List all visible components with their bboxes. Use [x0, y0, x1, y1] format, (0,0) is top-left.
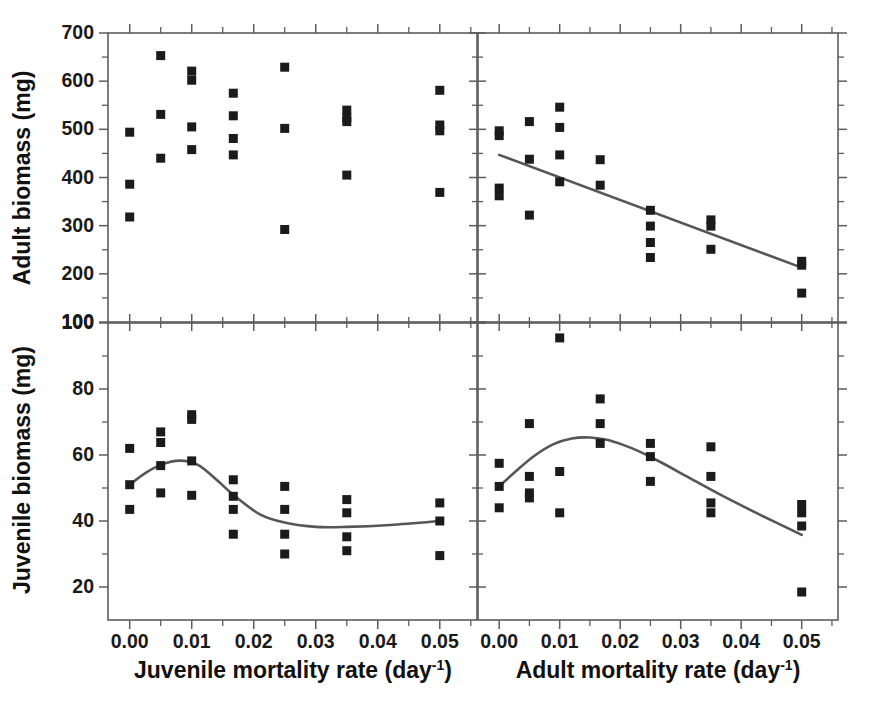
data-point — [156, 427, 165, 436]
data-point — [156, 154, 165, 163]
data-point — [495, 482, 504, 491]
y-tick-label: 100 — [61, 311, 94, 333]
data-point — [156, 110, 165, 119]
data-point — [706, 442, 715, 451]
data-point — [495, 503, 504, 512]
panel-bottom-left — [99, 314, 486, 629]
y-tick-label: 500 — [61, 117, 94, 139]
data-point — [156, 461, 165, 470]
x-tick-label: 0.00 — [111, 630, 149, 652]
data-point — [435, 86, 444, 95]
y-tick-label: 20 — [72, 575, 94, 597]
data-point — [342, 117, 351, 126]
x-tick-label: 0.02 — [601, 630, 639, 652]
data-point — [596, 419, 605, 428]
data-point — [187, 415, 196, 424]
data-point — [525, 117, 534, 126]
data-point — [495, 459, 504, 468]
data-point — [555, 508, 564, 517]
data-point — [797, 289, 806, 298]
data-point — [596, 394, 605, 403]
data-point — [280, 505, 289, 514]
data-point — [229, 530, 238, 539]
data-point — [280, 63, 289, 72]
data-point — [187, 145, 196, 154]
data-point — [646, 452, 655, 461]
data-point — [229, 150, 238, 159]
data-point — [555, 467, 564, 476]
x-tick-label: 0.04 — [359, 630, 397, 652]
panel-frame — [108, 33, 477, 322]
x-tick-label: 0.05 — [783, 630, 821, 652]
data-point — [187, 491, 196, 500]
data-point — [342, 171, 351, 180]
data-point — [797, 508, 806, 517]
data-point — [555, 103, 564, 112]
y-tick-label: 200 — [61, 262, 94, 284]
y-axis-title-top: Adult biomass (mg) — [9, 71, 35, 286]
data-point — [646, 222, 655, 231]
data-point — [525, 155, 534, 164]
data-point — [229, 134, 238, 143]
data-point — [495, 131, 504, 140]
data-point — [435, 517, 444, 526]
data-point — [555, 150, 564, 159]
data-point — [706, 245, 715, 254]
data-point — [797, 588, 806, 597]
data-point — [187, 76, 196, 85]
data-point — [525, 211, 534, 220]
data-point — [555, 123, 564, 132]
y-tick-label: 40 — [72, 509, 94, 531]
fit-line — [130, 461, 440, 528]
data-point — [125, 480, 134, 489]
multi-panel-chart: 700600500400300200100100806040200.000.01… — [0, 0, 869, 709]
y-axis-title-bottom: Juvenile biomass (mg) — [9, 346, 35, 594]
data-point — [797, 522, 806, 531]
y-tick-label: 400 — [61, 166, 94, 188]
x-tick-label: 0.02 — [235, 630, 273, 652]
x-tick-label: 0.01 — [173, 630, 211, 652]
x-axis-title-left: Juvenile mortality rate (day-1) — [134, 657, 452, 683]
data-point — [435, 498, 444, 507]
panel-frame — [108, 323, 477, 620]
data-point — [555, 177, 564, 186]
x-tick-label: 0.03 — [297, 630, 335, 652]
data-point — [646, 439, 655, 448]
data-point — [646, 477, 655, 486]
data-point — [125, 180, 134, 189]
data-point — [229, 111, 238, 120]
data-point — [342, 508, 351, 517]
data-point — [435, 126, 444, 135]
data-point — [646, 238, 655, 247]
data-point — [596, 439, 605, 448]
data-point — [596, 181, 605, 190]
panel-frame — [478, 33, 838, 322]
data-point — [125, 505, 134, 514]
data-point — [495, 191, 504, 200]
data-point — [342, 106, 351, 115]
x-tick-label: 0.04 — [722, 630, 760, 652]
data-point — [280, 482, 289, 491]
data-point — [156, 438, 165, 447]
data-point — [229, 89, 238, 98]
y-tick-label: 600 — [61, 69, 94, 91]
figure-container: 700600500400300200100100806040200.000.01… — [0, 0, 869, 709]
data-point — [342, 495, 351, 504]
y-tick-label: 60 — [72, 443, 94, 465]
x-axis-title-right: Adult mortality rate (day-1) — [516, 657, 801, 683]
y-tick-label: 700 — [61, 21, 94, 43]
data-point — [797, 500, 806, 509]
data-point — [280, 550, 289, 559]
data-point — [646, 206, 655, 215]
x-tick-label: 0.01 — [541, 630, 579, 652]
data-point — [187, 122, 196, 131]
data-point — [187, 67, 196, 76]
data-point — [525, 472, 534, 481]
x-tick-label: 0.05 — [421, 630, 459, 652]
data-point — [525, 419, 534, 428]
data-point — [435, 188, 444, 197]
data-point — [706, 498, 715, 507]
data-point — [280, 225, 289, 234]
data-point — [125, 444, 134, 453]
data-point — [797, 261, 806, 270]
